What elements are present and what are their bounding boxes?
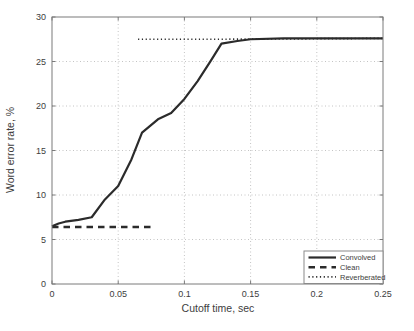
series-convolved (52, 38, 383, 226)
legend: ConvolvedCleanReverberated (304, 251, 385, 284)
y-tick-label: 15 (36, 146, 46, 156)
y-tick-label: 20 (36, 101, 46, 111)
y-tick-label: 30 (36, 12, 46, 22)
y-tick-label: 10 (36, 190, 46, 200)
figure: 00.050.10.150.20.25051015202530 Cutoff t… (0, 0, 414, 331)
series-lines (52, 38, 383, 227)
y-tick-label: 25 (36, 57, 46, 67)
x-tick-label: 0.05 (109, 289, 127, 299)
y-axis-label: Word error rate, % (4, 107, 16, 193)
gridlines (52, 17, 383, 284)
x-tick-label: 0.25 (374, 289, 392, 299)
line-chart: 00.050.10.150.20.25051015202530 Cutoff t… (0, 0, 414, 331)
legend-label: Convolved (340, 253, 375, 262)
x-tick-label: 0 (49, 289, 54, 299)
x-tick-label: 0.2 (311, 289, 324, 299)
y-tick-label: 0 (41, 279, 46, 289)
x-tick-label: 0.15 (242, 289, 260, 299)
legend-label: Reverberated (340, 273, 385, 282)
y-tick-label: 5 (41, 235, 46, 245)
x-axis-label: Cutoff time, sec (182, 302, 255, 314)
x-tick-label: 0.1 (178, 289, 191, 299)
legend-label: Clean (340, 263, 360, 272)
